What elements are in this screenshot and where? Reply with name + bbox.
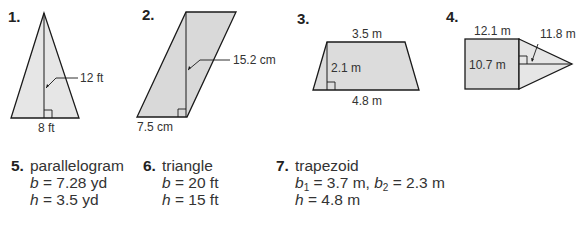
problem-6: 6.triangle b = 20 ft h = 15 ft <box>143 157 218 208</box>
problem-5-base: b = 7.28 yd <box>11 174 124 191</box>
figure-3-top-label: 3.5 m <box>352 27 382 41</box>
problem-7-shape: trapezoid <box>295 157 359 174</box>
figure-2-base-label: 7.5 cm <box>137 120 173 134</box>
figure-1-base-label: 8 ft <box>38 121 55 135</box>
figure-1-triangle <box>11 13 79 118</box>
figure-1-number: 1. <box>8 8 21 25</box>
figure-4-number: 4. <box>446 8 459 25</box>
problem-6-shape: triangle <box>162 157 213 174</box>
figure-4-side-label: 10.7 m <box>469 58 506 72</box>
figure-3-base-label: 4.8 m <box>352 94 382 108</box>
problem-7-height: h = 4.8 m <box>276 191 445 208</box>
figure-1-height-label: 12 ft <box>80 71 103 85</box>
problem-5-number: 5. <box>11 157 24 174</box>
problem-7-number: 7. <box>276 157 289 174</box>
problem-6-height: h = 15 ft <box>143 191 218 208</box>
figure-4-triangle-height-label: 11.8 m <box>540 27 576 41</box>
problem-6-base: b = 20 ft <box>143 174 218 191</box>
problem-7-bases: b1 = 3.7 m, b2 = 2.3 m <box>276 174 445 191</box>
figure-3-number: 3. <box>297 10 310 27</box>
figure-2-height-label: 15.2 cm <box>233 53 276 67</box>
figure-3-trapezoid <box>313 42 419 90</box>
problem-5-shape: parallelogram <box>30 157 124 174</box>
figure-2-parallelogram <box>137 12 236 117</box>
problem-5-height: h = 3.5 yd <box>11 191 124 208</box>
problem-5: 5.parallelogram b = 7.28 yd h = 3.5 yd <box>11 157 124 208</box>
figure-2-number: 2. <box>142 6 155 23</box>
problem-6-number: 6. <box>143 157 156 174</box>
problem-7: 7.trapezoid b1 = 3.7 m, b2 = 2.3 m h = 4… <box>276 157 445 208</box>
figure-4-width-label: 12.1 m <box>474 24 511 38</box>
figure-3-height-label: 2.1 m <box>331 61 361 75</box>
